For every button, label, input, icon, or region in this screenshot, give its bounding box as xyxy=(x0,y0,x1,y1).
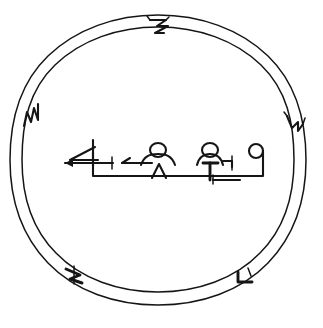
ring-outer-circle xyxy=(10,15,306,305)
curl-notch-glyph-lower-left xyxy=(66,266,82,284)
zigzag-notch-glyph-upper-left xyxy=(24,104,38,126)
crossed-chevron-glyph xyxy=(65,140,113,169)
left-arrow-glyph xyxy=(122,158,152,163)
outer-circle-path xyxy=(10,15,306,305)
pin-figure-glyph xyxy=(197,143,240,184)
upper-left-notch-stroke xyxy=(24,104,38,126)
central-inscription xyxy=(65,140,263,184)
loop-descending-stroke xyxy=(243,151,263,176)
hooked-loop-glyph xyxy=(243,144,263,176)
figure-root xyxy=(0,0,323,328)
zigzag-notch-glyph-top xyxy=(147,16,169,33)
loop-circle xyxy=(249,144,263,158)
pin-figure-arm xyxy=(223,161,232,167)
domed-figure-glyph xyxy=(141,143,175,178)
ring-inner-circle xyxy=(22,27,294,292)
inner-circle-path xyxy=(22,27,294,292)
figure-caption xyxy=(0,316,323,328)
lower-right-notch-tick xyxy=(248,268,251,276)
seal-drawing xyxy=(0,0,323,328)
